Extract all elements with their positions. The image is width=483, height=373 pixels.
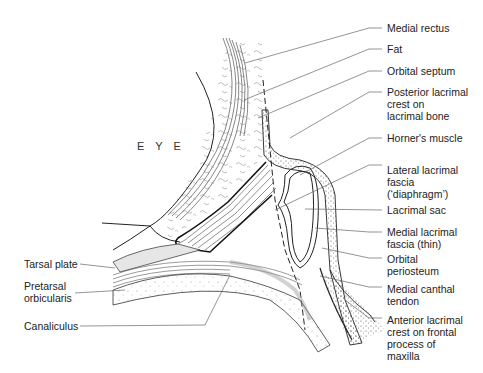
lacrimal-sac [278,166,318,268]
eye-region-label: E Y E [137,140,185,152]
label-lateral-lacrimal-fascia: Lateral lacrimal fascia (‘diaphragm’) [387,164,458,200]
label-orbital-periosteum: Orbital periosteum [387,253,439,277]
label-posterior-lacrimal-crest: Posterior lacrimal crest on lacrimal bon… [387,86,468,122]
eyelid-layers [113,244,330,352]
label-horners-muscle: Horner's muscle [387,132,463,144]
label-canaliculus: Canaliculus [24,320,78,332]
label-anterior-lacrimal-crest: Anterior lacrimal crest on frontal proce… [387,314,463,362]
label-fat: Fat [387,43,402,55]
label-pretarsal-orbicularis: Pretarsal orbicularis [24,280,72,304]
label-medial-lacrimal-fascia: Medial lacrimal fascia (thin) [387,226,457,250]
label-medial-canthal-tendon: Medial canthal tendon [387,283,455,307]
globe-outline [102,72,214,250]
label-tarsal-plate: Tarsal plate [24,258,78,270]
label-orbital-septum: Orbital septum [387,65,455,77]
label-medial-rectus: Medial rectus [387,22,449,34]
label-lacrimal-sac: Lacrimal sac [387,204,446,216]
